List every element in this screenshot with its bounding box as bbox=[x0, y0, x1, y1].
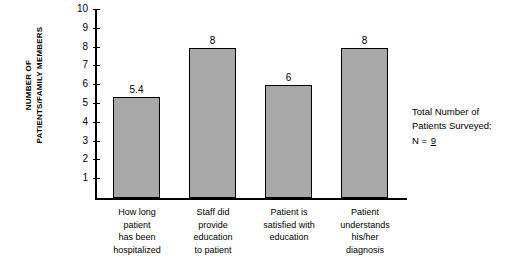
y-tick-mark: 8 bbox=[93, 47, 100, 48]
x-axis-line bbox=[95, 198, 407, 200]
y-tick-mark: 1 bbox=[93, 178, 100, 179]
annotation-n-line: N = 9 bbox=[412, 134, 522, 148]
y-tick-mark: 4 bbox=[93, 122, 100, 123]
category-label: Patient understands his/her diagnosis bbox=[327, 206, 403, 256]
category-label-line: has been bbox=[99, 231, 175, 244]
category-label-line: understands bbox=[327, 219, 403, 232]
annotation-n-value: 9 bbox=[430, 135, 437, 146]
bar: 8 bbox=[189, 48, 236, 198]
category-label-line: education bbox=[175, 231, 251, 244]
bar: 8 bbox=[341, 48, 388, 198]
category-label-line: How long bbox=[99, 206, 175, 219]
annotation-n-label: N = bbox=[412, 135, 430, 146]
category-label-line: Patient is bbox=[251, 206, 327, 219]
category-label-line: Staff did bbox=[175, 206, 251, 219]
bar-value-label: 6 bbox=[286, 72, 292, 83]
category-label: How long patient has been hospitalized bbox=[99, 206, 175, 256]
bar: 6 bbox=[265, 85, 312, 198]
category-label-line: hospitalized bbox=[99, 244, 175, 257]
category-label-line: diagnosis bbox=[327, 244, 403, 257]
y-axis-line bbox=[95, 10, 97, 200]
y-tick-label: 10 bbox=[68, 2, 88, 15]
category-label: Patient is satisfied with education bbox=[251, 206, 327, 244]
y-tick-label: 6 bbox=[68, 77, 88, 90]
bar-chart: NUMBER OF PATIENTS/FAMILY MEMBERS 1 2 3 … bbox=[0, 0, 525, 270]
annotation-line-2: Patients Surveyed: bbox=[412, 119, 522, 133]
category-label-line: his/her bbox=[327, 231, 403, 244]
y-tick-mark: 2 bbox=[93, 159, 100, 160]
category-label: Staff did provide education to patient bbox=[175, 206, 251, 256]
annotation-line-1: Total Number of bbox=[412, 105, 522, 119]
y-tick-label: 1 bbox=[68, 171, 88, 184]
bar-value-label: 5.4 bbox=[130, 84, 144, 95]
plot-area: 1 2 3 4 5 6 7 8 9 10 5.4 bbox=[95, 10, 407, 200]
y-tick-label: 2 bbox=[68, 152, 88, 165]
bar: 5.4 bbox=[113, 97, 160, 199]
y-axis-label: NUMBER OF PATIENTS/FAMILY MEMBERS bbox=[23, 25, 45, 145]
bar-value-label: 8 bbox=[210, 35, 216, 46]
y-tick-label: 7 bbox=[68, 58, 88, 71]
bar-value-label: 8 bbox=[362, 35, 368, 46]
category-label-line: Patient bbox=[327, 206, 403, 219]
y-tick-mark: 10 bbox=[93, 9, 100, 10]
survey-total-annotation: Total Number of Patients Surveyed: N = 9 bbox=[412, 105, 522, 148]
category-label-line: satisfied with bbox=[251, 219, 327, 232]
category-label-line: patient bbox=[99, 219, 175, 232]
y-tick-mark: 3 bbox=[93, 141, 100, 142]
y-tick-mark: 6 bbox=[93, 84, 100, 85]
y-tick-mark: 5 bbox=[93, 103, 100, 104]
x-axis-category-labels: How long patient has been hospitalized S… bbox=[95, 206, 415, 266]
y-tick-label: 5 bbox=[68, 96, 88, 109]
y-tick-label: 9 bbox=[68, 21, 88, 34]
y-tick-label: 3 bbox=[68, 134, 88, 147]
y-tick-label: 8 bbox=[68, 40, 88, 53]
category-label-line: education bbox=[251, 231, 327, 244]
y-tick-mark: 7 bbox=[93, 65, 100, 66]
y-tick-mark: 9 bbox=[93, 28, 100, 29]
category-label-line: provide bbox=[175, 219, 251, 232]
category-label-line: to patient bbox=[175, 244, 251, 257]
y-tick-label: 4 bbox=[68, 115, 88, 128]
